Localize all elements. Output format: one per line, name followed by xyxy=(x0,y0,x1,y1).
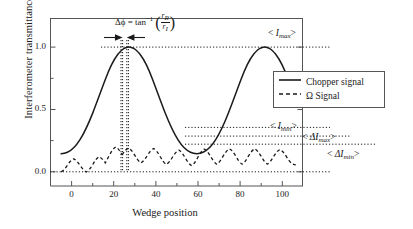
phase-marker-lines xyxy=(121,40,128,172)
chart-legend: Chopper signal Ω Signal xyxy=(273,71,385,108)
di-max-lt: < xyxy=(302,132,307,142)
label-delta-i-max: < ΔImax> xyxy=(302,132,336,144)
i-max-sub: max xyxy=(279,32,291,40)
formula-fraction: rRrI xyxy=(161,12,170,34)
di-max-gt: > xyxy=(330,132,335,142)
y-tick-0.5: 0.5 xyxy=(22,103,46,113)
axes-frame xyxy=(51,18,304,186)
figure-interferometer-transmittance: Interferometer transmittance 1.0 0.5 0.0… xyxy=(0,0,413,229)
label-delta-i-min: < ΔImin> xyxy=(327,149,359,161)
di-min-lt: < xyxy=(327,149,332,159)
formula-equals: = xyxy=(128,17,133,27)
x-tick-40: 40 xyxy=(143,189,169,199)
x-axis-ticks xyxy=(72,181,283,186)
i-min-sub: min xyxy=(281,125,292,133)
di-min-sub: min xyxy=(343,153,354,161)
legend-label-chopper: Chopper signal xyxy=(306,77,364,87)
x-tick-0: 0 xyxy=(59,189,85,199)
di-max-sub: max xyxy=(318,136,330,144)
x-tick-60: 60 xyxy=(185,189,211,199)
legend-item-chopper-signal: Chopper signal xyxy=(278,77,364,87)
formula-exponent: −1 xyxy=(146,15,153,22)
series-omega-signal xyxy=(61,147,296,172)
formula-denominator: rI xyxy=(161,23,170,33)
y-tick-1.0: 1.0 xyxy=(22,41,46,51)
series-chopper-signal xyxy=(61,47,295,154)
i-min-lt: < xyxy=(270,121,275,131)
formula-paren-close: ) xyxy=(170,16,175,30)
y-tick-0.0: 0.0 xyxy=(22,166,46,176)
annotation-delta-phi-formula: Δϕ = tan−1 (rRrI) xyxy=(115,12,175,34)
x-tick-100: 100 xyxy=(269,189,295,199)
legend-item-omega-signal: Ω Signal xyxy=(278,91,340,101)
delta-phi-arrow xyxy=(104,35,145,40)
i-max-gt: > xyxy=(291,28,296,38)
i-min-gt: > xyxy=(291,121,296,131)
i-max-lt: < xyxy=(268,28,273,38)
x-axis-label: Wedge position xyxy=(55,207,275,218)
label-i-min: < Imin> xyxy=(270,121,297,133)
formula-tan: tan xyxy=(135,17,146,27)
di-min-gt: > xyxy=(354,149,359,159)
x-tick-80: 80 xyxy=(227,189,253,199)
y-axis-ticks xyxy=(51,47,303,172)
label-i-max: < Imax> xyxy=(268,28,296,40)
legend-label-omega: Ω Signal xyxy=(306,91,340,101)
formula-delta-phi: Δϕ xyxy=(115,17,126,27)
x-tick-20: 20 xyxy=(101,189,127,199)
